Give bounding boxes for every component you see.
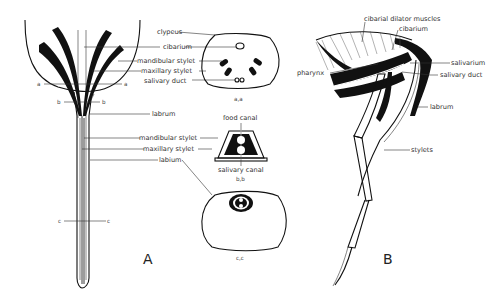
- label-pharynx: pharynx: [297, 69, 324, 77]
- section-mark-c-left: c: [58, 218, 61, 224]
- label-maxillary-stylet: maxillary stylet: [141, 67, 192, 75]
- section-mark-a-right: a: [124, 81, 127, 87]
- cross-section-cc: c,c: [202, 191, 286, 261]
- section-mark-b-right: b: [102, 99, 106, 105]
- label-cibarium: cibarium: [163, 43, 192, 51]
- label-clypeus: clypeus: [157, 28, 183, 36]
- label-food-canal: food canal: [223, 114, 258, 122]
- proboscis-inner-lines: [80, 118, 86, 280]
- label-labium: labium: [159, 156, 182, 164]
- label-salivary-duct: salivary duct: [144, 77, 187, 85]
- mouthparts-diagram: a a b b c c clypeus cibarium mandibular …: [0, 0, 499, 297]
- panel-a-head: a a b b c c: [25, 20, 140, 288]
- cross-section-aa: a,a: [202, 34, 279, 102]
- label-labrum-b: labrum: [430, 103, 453, 111]
- section-mark-a-left: a: [37, 81, 40, 87]
- label-labrum: labrum: [152, 110, 175, 118]
- section-mark-c-right: c: [107, 218, 110, 224]
- section-mark-b-left: b: [57, 99, 61, 105]
- label-salivary-duct-b: salivary duct: [440, 71, 483, 79]
- label-cibarial-dilator-muscles: cibarial dilator muscles: [364, 15, 441, 23]
- label-mandibular-stylet-2: mandibular stylet: [139, 134, 198, 142]
- label-maxillary-stylet-2: maxillary stylet: [143, 145, 194, 153]
- head-capsule-outline: [25, 20, 140, 91]
- label-mandibular-stylet: mandibular stylet: [137, 57, 196, 65]
- label-salivary-canal: salivary canal: [218, 166, 264, 174]
- caption-cc: c,c: [236, 255, 244, 261]
- label-cibarium-b: cibarium: [399, 25, 428, 33]
- label-salivarium: salivarium: [451, 59, 485, 67]
- label-stylets: stylets: [411, 146, 433, 154]
- caption-aa: a,a: [234, 96, 243, 102]
- panel-letter-b: B: [383, 251, 393, 267]
- stylet-bundle: [82, 118, 84, 284]
- panel-b-lateral: [316, 31, 432, 286]
- panel-letter-a: A: [143, 251, 153, 267]
- proboscis-outline: [74, 92, 92, 288]
- panel-b-labels: cibarial dilator muscles cibarium pharyn…: [297, 15, 485, 267]
- caption-bb: b,b: [236, 176, 245, 182]
